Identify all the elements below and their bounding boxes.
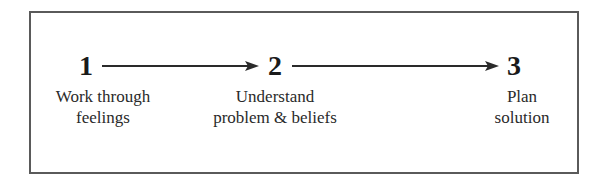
step-1-label-line1: Work through [43,86,163,107]
step-1-label-line2: feelings [43,107,163,128]
step-3-label-line1: Plan [482,86,562,107]
step-1-label: Work through feelings [43,86,163,128]
step-3-label-line2: solution [482,107,562,128]
step-2-label: Understand problem & beliefs [205,86,345,128]
arrow-1-to-2-icon [102,59,260,73]
step-1-number: 1 [66,52,106,80]
step-3-number: 3 [494,52,534,80]
step-2-label-line2: problem & beliefs [205,107,345,128]
step-2-label-line1: Understand [205,86,345,107]
step-3-label: Plan solution [482,86,562,128]
step-2-number: 2 [255,52,295,80]
arrow-2-to-3-icon [292,59,500,73]
